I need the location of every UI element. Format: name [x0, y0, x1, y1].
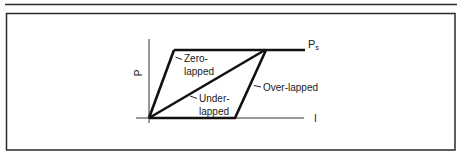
zero-lapped-label-line1: Zero- — [184, 53, 208, 64]
supply-pressure-label: Ps — [308, 38, 319, 52]
supply-pressure-label-main: P — [308, 38, 315, 50]
over-lapped-label: Over-lapped — [263, 82, 318, 93]
zero-lapped-leader — [176, 57, 183, 60]
y-axis-label: P — [133, 69, 144, 76]
under-lapped-label-line1: Under- — [199, 93, 230, 104]
zero-lapped-curve — [149, 50, 174, 118]
figure-frame — [7, 14, 456, 151]
x-axis-label: I — [314, 113, 317, 124]
under-lapped-leader — [190, 96, 197, 99]
zero-lapped-label-line2: lapped — [184, 66, 214, 77]
valve-lap-diagram: P I Ps Zero- lapped Under- lapped Over-l… — [0, 0, 463, 156]
supply-pressure-label-sub: s — [315, 43, 319, 52]
under-lapped-label-line2: lapped — [199, 106, 229, 117]
over-lapped-leader — [254, 86, 261, 88]
